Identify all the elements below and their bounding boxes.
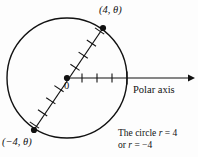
figure-caption: The circle r = 4 or r = −4 [118,128,177,152]
point-marker-r-neg4 [31,127,37,133]
origin-label: 0 [64,80,69,92]
polar-circle-figure: (4, θ) (−4, θ) 0 Polar axis The circle r… [0,0,198,157]
polar-axis-group [67,72,195,85]
caption-line1-prefix: The circle [118,128,159,138]
caption-line-secondary: or r = −4 [118,140,177,152]
point-marker-r4 [100,25,106,31]
polar-axis-label: Polar axis [133,84,175,96]
caption-line-primary: The circle r = 4 [118,128,177,140]
point-label-r-neg4: (−4, θ) [2,136,32,148]
point-label-r4: (4, θ) [99,4,122,16]
theta-ray-ticks-negative [30,86,64,129]
caption-line1-suffix: = 4 [162,128,177,138]
caption-line2-suffix: = −4 [132,140,152,150]
polar-axis-arrowhead [188,74,195,81]
caption-line2-prefix: or [118,140,128,150]
